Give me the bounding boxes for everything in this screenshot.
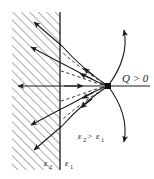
epsilon-left-subscript: 2 [49, 163, 52, 170]
label-charge: Q > 0 [122, 72, 149, 84]
label-epsilon-right: ε 1 [65, 158, 73, 170]
relation-eps-2: ε [78, 131, 82, 141]
field-lines-solid-upper [61, 46, 108, 86]
charge-label-text: Q > 0 [122, 72, 149, 84]
field-line-diagram: Q > 0 ε 2 ε 1 ε 2 > ε 1 [0, 0, 154, 179]
field-lines-solid-lower [61, 86, 108, 126]
epsilon-right-symbol: ε [65, 158, 69, 168]
dielectric-region-hatched [12, 12, 60, 170]
relation-sub-2: 2 [83, 136, 86, 143]
relation-eps-1: ε [96, 131, 100, 141]
field-arrow-markers-upper [83, 70, 94, 79]
relation-sub-1: 1 [101, 136, 104, 143]
epsilon-right-subscript: 1 [70, 163, 73, 170]
label-epsilon-relation: ε 2 > ε 1 [78, 131, 104, 143]
epsilon-left-symbol: ε [44, 158, 48, 168]
relation-greater-than: > [87, 131, 92, 141]
figure-container: Q > 0 ε 2 ε 1 ε 2 > ε 1 [0, 0, 154, 179]
point-charge-marker [105, 83, 111, 89]
